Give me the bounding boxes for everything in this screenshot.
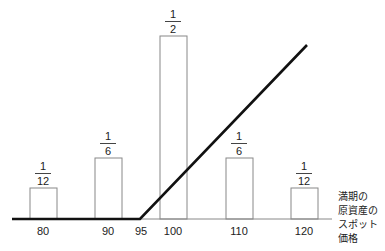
x-axis-label-line: スポット	[338, 218, 378, 232]
bar-80	[30, 188, 57, 219]
numerator: 1	[158, 8, 188, 20]
x-axis-label-line: 原資産の	[338, 204, 378, 218]
x-tick-120: 120	[289, 225, 319, 237]
bar-label-100: 1 2	[158, 8, 188, 35]
bar-label-110: 1 6	[224, 130, 254, 157]
denominator: 6	[224, 145, 254, 157]
denominator: 12	[289, 175, 319, 187]
x-tick-90: 90	[93, 225, 123, 237]
x-tick-100: 100	[158, 225, 188, 237]
x-tick-110: 110	[224, 225, 254, 237]
x-tick-80: 80	[28, 225, 58, 237]
numerator: 1	[93, 130, 123, 142]
numerator: 1	[289, 160, 319, 172]
numerator: 1	[28, 160, 58, 172]
fraction-bar	[296, 173, 312, 174]
bar-90	[95, 158, 122, 219]
denominator: 12	[28, 175, 58, 187]
fraction-bar	[165, 21, 181, 22]
denominator: 6	[93, 145, 123, 157]
bar-label-90: 1 6	[93, 130, 123, 157]
bar-120	[291, 188, 318, 219]
bar-110	[226, 158, 253, 219]
x-axis-label-line: 満期の	[338, 190, 378, 204]
bar-100	[160, 36, 187, 219]
bar-label-80: 1 12	[28, 160, 58, 187]
x-axis-label-line: 価格	[338, 232, 378, 246]
chart-canvas	[0, 0, 385, 251]
numerator: 1	[224, 130, 254, 142]
fraction-bar	[231, 143, 247, 144]
bar-label-120: 1 12	[289, 160, 319, 187]
fraction-bar	[35, 173, 51, 174]
x-axis-label: 満期の 原資産の スポット 価格	[338, 190, 378, 246]
x-tick-95: 95	[126, 225, 156, 237]
denominator: 2	[158, 23, 188, 35]
fraction-bar	[100, 143, 116, 144]
